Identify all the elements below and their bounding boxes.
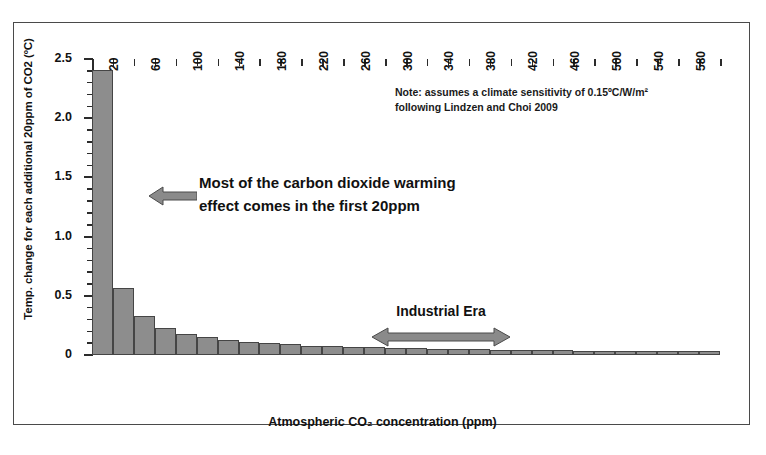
- x-tick: [636, 59, 638, 66]
- x-tick-label: 260: [359, 51, 373, 71]
- bar: [218, 340, 239, 355]
- x-tick-label: 60: [149, 58, 163, 71]
- bar: [636, 351, 657, 355]
- x-tick-label: 340: [442, 51, 456, 71]
- callout-line-2: effect comes in the first 20ppm: [199, 194, 499, 217]
- callout-line-1: Most of the carbon dioxide warming: [199, 171, 499, 194]
- x-tick: [343, 59, 345, 66]
- y-tick-label: 1.0: [32, 229, 72, 243]
- x-axis-title: Atmospheric CO₂ concentration (ppm): [14, 415, 751, 429]
- bar: [532, 350, 553, 355]
- x-tick: [553, 59, 555, 66]
- bar: [343, 347, 364, 355]
- bar: [657, 351, 678, 355]
- x-tick: [594, 59, 596, 66]
- y-tick-label: 2.0: [32, 110, 72, 124]
- bar: [113, 288, 134, 355]
- note-line-1: Note: assumes a climate sensitivity of 0…: [395, 85, 725, 100]
- bar: [134, 316, 155, 355]
- x-tick-label: 380: [484, 51, 498, 71]
- note-annotation: Note: assumes a climate sensitivity of 0…: [395, 85, 725, 115]
- industrial-era-label: Industrial Era: [366, 303, 516, 319]
- bar: [448, 349, 469, 355]
- y-tick-label: 0: [32, 347, 72, 361]
- x-tick-label: 220: [317, 51, 331, 71]
- y-tick-label: 2.5: [32, 51, 72, 65]
- x-tick: [427, 59, 429, 66]
- x-tick: [301, 59, 303, 66]
- bar: [427, 349, 448, 355]
- bar: [197, 337, 218, 355]
- callout-annotation: Most of the carbon dioxide warming effec…: [199, 171, 499, 217]
- bar: [678, 351, 699, 355]
- bar: [699, 351, 720, 355]
- bar: [322, 346, 343, 355]
- bar: [573, 351, 594, 355]
- bar: [490, 350, 511, 355]
- x-tick: [259, 59, 261, 66]
- x-tick: [134, 59, 136, 66]
- industrial-era-span-arrow-icon: [372, 326, 510, 348]
- x-tick: [678, 59, 680, 66]
- x-tick-label: 580: [694, 51, 708, 71]
- x-tick-label: 460: [568, 51, 582, 71]
- y-tick-label: 0.5: [32, 288, 72, 302]
- bar: [239, 342, 260, 355]
- bar: [469, 349, 490, 355]
- bar: [594, 351, 615, 355]
- x-tick: [511, 59, 513, 66]
- bar: [615, 351, 636, 355]
- x-tick: [469, 59, 471, 66]
- bar: [280, 344, 301, 355]
- bar: [259, 343, 280, 355]
- bar: [553, 350, 574, 355]
- y-tick-label: 1.5: [32, 169, 72, 183]
- x-tick: [385, 59, 387, 66]
- x-tick-label: 100: [191, 51, 205, 71]
- bar: [301, 346, 322, 355]
- bar: [511, 350, 532, 355]
- note-line-2: following Lindzen and Choi 2009: [395, 100, 725, 115]
- x-tick-label: 500: [610, 51, 624, 71]
- x-tick: [720, 59, 722, 66]
- x-tick-label: 300: [401, 51, 415, 71]
- x-tick-label: 180: [275, 51, 289, 71]
- bar: [176, 334, 197, 355]
- x-tick: [92, 59, 94, 66]
- bar: [385, 348, 406, 355]
- x-tick-label: 420: [526, 51, 540, 71]
- bar: [92, 70, 113, 355]
- left-arrow-icon: [149, 186, 197, 206]
- bar: [406, 348, 427, 355]
- chart-frame: Temp. change for each additional 20ppm o…: [13, 22, 750, 425]
- x-tick: [176, 59, 178, 66]
- x-tick-label: 140: [233, 51, 247, 71]
- bar: [155, 328, 176, 355]
- bar: [364, 347, 385, 355]
- x-tick: [218, 59, 220, 66]
- x-tick-label: 540: [652, 51, 666, 71]
